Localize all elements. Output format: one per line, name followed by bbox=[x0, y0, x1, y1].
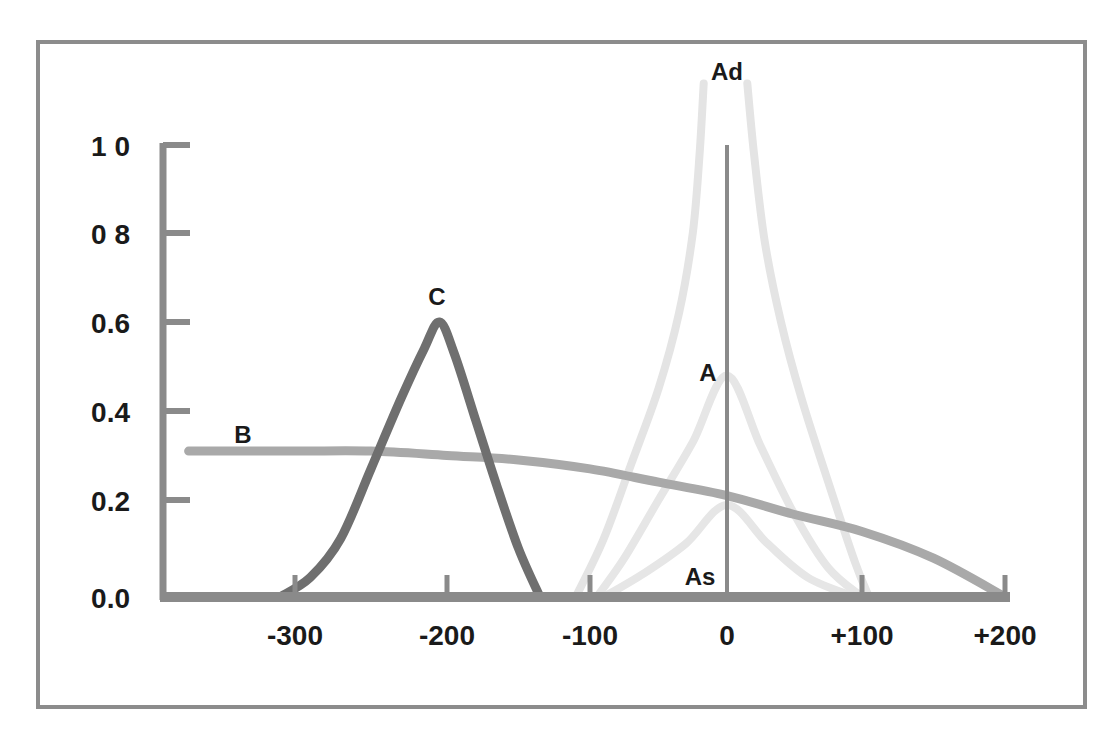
x-tick-label: 0 bbox=[719, 620, 735, 651]
x-tick-label: +200 bbox=[973, 620, 1036, 651]
y-tick-label: 0.0 bbox=[91, 583, 130, 614]
curve-label-a: A bbox=[699, 359, 716, 386]
series-a-curve bbox=[597, 375, 862, 597]
y-tick-label: 0.4 bbox=[91, 397, 130, 428]
x-tick-label: -100 bbox=[562, 620, 618, 651]
y-tick-label: 0.6 bbox=[91, 308, 130, 339]
y-tick-label: 0.2 bbox=[91, 486, 130, 517]
curve-label-b: B bbox=[234, 421, 251, 448]
curve-label-c: C bbox=[428, 283, 445, 310]
y-ticks: 0.00.20.40.60 81 0 bbox=[91, 131, 190, 614]
curve-label-as: As bbox=[685, 563, 716, 590]
y-tick-label: 1 0 bbox=[91, 131, 130, 162]
x-tick-label: +100 bbox=[830, 620, 893, 651]
series-ad-curve bbox=[576, 83, 704, 597]
x-ticks: -300-200-1000+100+200 bbox=[267, 575, 1037, 651]
series-layer bbox=[189, 83, 1005, 597]
curve-label-ad: Ad bbox=[711, 58, 743, 85]
axes: 0.00.20.40.60 81 0 -300-200-1000+100+200 bbox=[91, 131, 1036, 651]
line-chart: 0.00.20.40.60 81 0 -300-200-1000+100+200… bbox=[0, 0, 1120, 738]
x-tick-label: -300 bbox=[267, 620, 323, 651]
y-tick-label: 0 8 bbox=[91, 219, 130, 250]
curve-labels: Ad A As B C bbox=[234, 58, 743, 590]
x-tick-label: -200 bbox=[419, 620, 475, 651]
